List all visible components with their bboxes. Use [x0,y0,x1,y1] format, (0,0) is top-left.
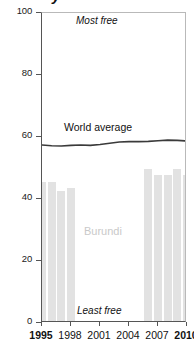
chart-burundi-freedom-index: 020406080100 199519982001200420072010 Mo… [0,0,194,345]
x-axis-tick-label: 2007 [145,329,168,341]
x-axis-tick-label: 1995 [29,329,52,341]
x-axis-tick-mark [70,322,71,326]
y-axis-tick-label: 80 [22,67,32,78]
y-axis-tick-label: 0 [27,315,32,326]
x-axis-tick-mark [157,322,158,326]
x-axis-tick-mark [99,322,100,326]
x-axis-tick-mark [41,322,42,326]
x-axis-tick-label: 1998 [58,329,81,341]
annotation-least-free: Least free [77,305,121,316]
series-label-burundi: Burundi [84,225,122,237]
x-axis-tick-label: 2010 [174,329,194,341]
x-axis-tick-mark [128,322,129,326]
series-label-world-average: World average [64,121,132,133]
annotation-most-free: Most free [76,15,118,26]
y-axis-tick-label: 20 [22,253,32,264]
y-axis-tick-label: 100 [17,5,32,16]
x-axis-tick-label: 2001 [87,329,110,341]
x-axis-tick-mark [186,322,187,326]
y-axis-tick-label: 60 [22,129,32,140]
plot-area [41,12,186,322]
x-axis-tick-label: 2004 [116,329,139,341]
y-axis-tick-label: 40 [22,191,32,202]
line-series-world-average [42,13,186,322]
